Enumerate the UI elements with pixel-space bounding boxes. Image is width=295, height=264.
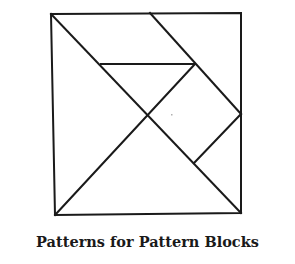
figure-caption: Patterns for Pattern Blocks [0,233,295,250]
main-diagonal [51,14,241,213]
tangram-diagram [0,0,295,264]
scan-speck [171,114,173,116]
anti-diagonal [55,64,195,215]
short-segment [194,114,241,163]
